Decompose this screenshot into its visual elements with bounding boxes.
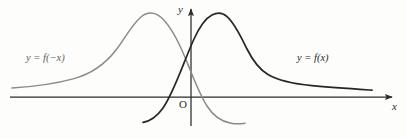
curve-f-of-negative-x xyxy=(12,13,245,124)
curve-f-of-x xyxy=(143,13,372,122)
curve-label-reflected: y = f(−x) xyxy=(26,53,65,64)
x-axis-label: x xyxy=(392,101,397,112)
plot-canvas xyxy=(0,0,407,139)
curve-label-original: y = f(x) xyxy=(297,53,329,64)
origin-label: O xyxy=(179,99,187,110)
function-reflection-figure: y = f(−x) y = f(x) O y x xyxy=(0,0,407,139)
y-axis-label: y xyxy=(178,4,183,15)
